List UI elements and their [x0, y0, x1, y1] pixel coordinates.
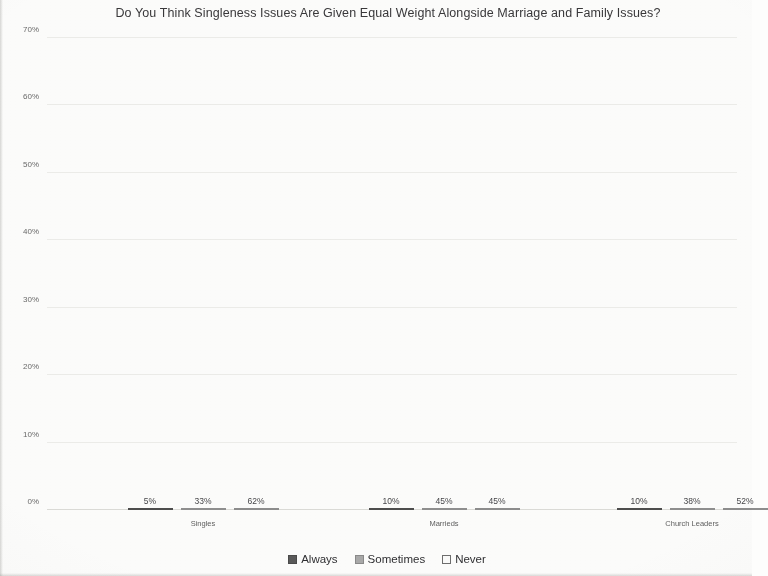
bar-value-label: 45%	[435, 496, 452, 506]
bar-value-label: 52%	[736, 496, 753, 506]
bar[interactable]: 33%	[181, 508, 226, 510]
bar[interactable]: 52%	[723, 508, 768, 510]
y-axis-tick-label: 10%	[23, 429, 39, 438]
x-axis-category-label: Church Leaders	[665, 519, 718, 528]
legend-item-always[interactable]: Always	[288, 553, 337, 565]
bar[interactable]: 45%	[475, 508, 520, 510]
y-axis-tick-label: 70%	[23, 25, 39, 34]
legend-label: Never	[455, 553, 486, 565]
y-axis-tick-label: 20%	[23, 362, 39, 371]
legend-swatch-icon	[288, 555, 297, 564]
bar-group: 10%45%45%Marrieds	[369, 38, 520, 510]
bar[interactable]: 62%	[234, 508, 279, 510]
bar[interactable]: 45%	[422, 508, 467, 510]
chart-legend: AlwaysSometimesNever	[0, 553, 752, 565]
bar[interactable]: 10%	[369, 508, 414, 510]
bar-value-label: 10%	[382, 496, 399, 506]
scan-edge-left	[0, 0, 3, 576]
bar-value-label: 10%	[630, 496, 647, 506]
legend-swatch-icon	[355, 555, 364, 564]
legend-item-never[interactable]: Never	[442, 553, 486, 565]
bar[interactable]: 38%	[670, 508, 715, 510]
bar-value-label: 45%	[488, 496, 505, 506]
chart-title: Do You Think Singleness Issues Are Given…	[0, 6, 752, 20]
bar-groups: 5%33%62%Singles10%45%45%Marrieds10%38%52…	[47, 38, 737, 510]
plot-area: 70%60%50%40%30%20%10%0% 5%33%62%Singles1…	[47, 38, 737, 510]
x-axis-category-label: Marrieds	[429, 519, 458, 528]
y-axis-tick-label: 40%	[23, 227, 39, 236]
bar-value-label: 33%	[194, 496, 211, 506]
legend-label: Sometimes	[368, 553, 426, 565]
bar[interactable]: 10%	[617, 508, 662, 510]
legend-swatch-icon	[442, 555, 451, 564]
bar-value-label: 5%	[144, 496, 156, 506]
bar-value-label: 62%	[247, 496, 264, 506]
bar[interactable]: 5%	[128, 508, 173, 510]
y-axis-tick-label: 60%	[23, 92, 39, 101]
bar-value-label: 38%	[683, 496, 700, 506]
y-axis-tick-label: 0%	[27, 497, 39, 506]
legend-item-sometimes[interactable]: Sometimes	[355, 553, 426, 565]
legend-label: Always	[301, 553, 337, 565]
bar-group: 10%38%52%Church Leaders	[617, 38, 768, 510]
x-axis-category-label: Singles	[191, 519, 216, 528]
y-axis-tick-label: 50%	[23, 159, 39, 168]
y-axis-tick-label: 30%	[23, 294, 39, 303]
bar-group: 5%33%62%Singles	[128, 38, 279, 510]
